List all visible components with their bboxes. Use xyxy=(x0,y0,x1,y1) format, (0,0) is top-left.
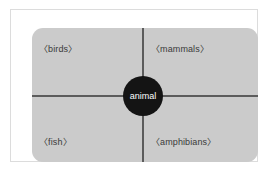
quadrant-label-birds: 〈birds〉 xyxy=(39,42,77,55)
diagram-outer-frame: 〈birds〉 〈mammals〉 〈fish〉 〈amphibians〉 an… xyxy=(10,9,258,162)
diagram-canvas: 〈birds〉 〈mammals〉 〈fish〉 〈amphibians〉 an… xyxy=(0,0,271,174)
center-node-animal: animal xyxy=(123,76,163,116)
quadrant-label-mammals: 〈mammals〉 xyxy=(151,42,209,55)
center-node-label: animal xyxy=(130,92,157,101)
quadrant-label-fish: 〈fish〉 xyxy=(39,135,72,148)
quadrant-panel: 〈birds〉 〈mammals〉 〈fish〉 〈amphibians〉 an… xyxy=(32,28,258,162)
quadrant-label-amphibians: 〈amphibians〉 xyxy=(151,135,216,148)
